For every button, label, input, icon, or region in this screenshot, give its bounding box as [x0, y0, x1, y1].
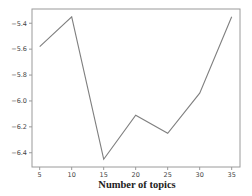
y-tick-label: −6.0 [11, 97, 27, 105]
x-tick-label: 20 [132, 171, 140, 179]
x-tick-label: 15 [100, 171, 108, 179]
x-tick-label: 30 [196, 171, 204, 179]
x-axis: 5101520253035 [38, 167, 236, 179]
y-tick-label: −6.2 [11, 123, 27, 131]
y-tick-label: −5.6 [11, 45, 27, 53]
line-chart: −5.4−5.6−5.8−6.0−6.2−6.4 5101520253035 N… [0, 0, 252, 196]
y-axis: −5.4−5.6−5.8−6.0−6.2−6.4 [11, 20, 32, 158]
plot-area [32, 9, 240, 167]
x-tick-label: 25 [164, 171, 172, 179]
x-axis-label: Number of topics [98, 179, 175, 190]
x-tick-label: 10 [68, 171, 76, 179]
y-tick-label: −5.4 [11, 20, 27, 28]
y-tick-label: −5.8 [11, 71, 27, 79]
x-tick-label: 35 [228, 171, 236, 179]
y-tick-label: −6.4 [11, 149, 27, 157]
x-tick-label: 5 [38, 171, 42, 179]
